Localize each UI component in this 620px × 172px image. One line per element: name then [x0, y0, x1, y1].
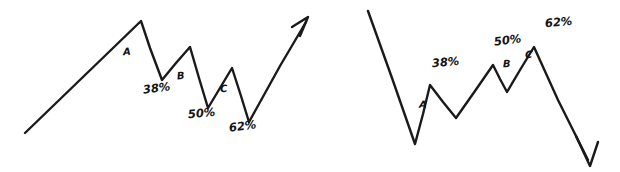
downtrend-price-line: [368, 11, 588, 160]
downtrend-arrow-head: [576, 136, 598, 166]
uptrend-level-label-50: 50%: [188, 107, 216, 121]
downtrend-wave-label-a: A: [419, 100, 427, 110]
downtrend-wave-label-b: B: [503, 59, 511, 69]
downtrend-chart-svg: [320, 0, 620, 172]
downtrend-level-label-38: 38%: [432, 56, 460, 70]
uptrend-chart-panel: A B C 38% 50% 62%: [0, 0, 320, 172]
downtrend-wave-label-c: C: [525, 50, 533, 60]
sketch-canvas: A B C 38% 50% 62% A B C 38% 50% 62%: [0, 0, 620, 172]
uptrend-wave-label-a: A: [123, 47, 132, 58]
uptrend-wave-label-b: B: [176, 71, 185, 82]
uptrend-arrow-head: [292, 17, 308, 36]
downtrend-chart-panel: A B C 38% 50% 62%: [320, 0, 620, 172]
uptrend-wave-label-c: C: [220, 84, 228, 94]
downtrend-level-label-62: 62%: [545, 16, 573, 30]
uptrend-price-line: [25, 21, 306, 133]
